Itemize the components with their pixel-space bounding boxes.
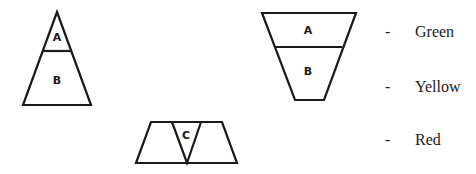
split-trapezoid-label-c: C — [182, 129, 190, 142]
legend-dash: - — [385, 23, 415, 41]
legend-dash: - — [385, 78, 415, 96]
triangle-shape: A B — [23, 12, 91, 105]
legend-item-red: -Red — [385, 131, 441, 149]
triangle-label-b: B — [53, 74, 61, 87]
legend-label: Green — [415, 23, 454, 40]
triangle-label-a: A — [53, 31, 62, 44]
legend-dash: - — [385, 131, 415, 149]
legend-item-yellow: -Yellow — [385, 78, 461, 96]
triangle-outline — [23, 12, 91, 105]
inverted-trapezoid-shape: A B — [262, 13, 356, 100]
legend-label: Yellow — [415, 78, 461, 95]
split-trapezoid-shape: C — [136, 122, 237, 163]
inverted-trapezoid-label-a: A — [304, 24, 313, 37]
legend-item-green: -Green — [385, 23, 454, 41]
inverted-trapezoid-label-b: B — [304, 65, 312, 78]
legend-label: Red — [415, 131, 441, 148]
